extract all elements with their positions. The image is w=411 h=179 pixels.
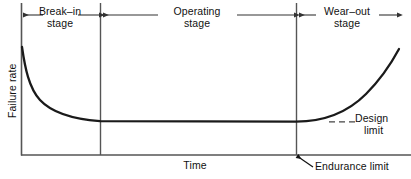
failure-rate-curve: [22, 47, 399, 122]
stage-label-operating-line1: Operating: [173, 5, 220, 17]
stage-label-break-in-line1: Break–in: [39, 5, 81, 17]
stage-label-break-in: Break–instage: [30, 6, 90, 29]
design-limit-label-line2: limit: [355, 125, 409, 137]
bathtub-curve-figure: Break–instage Operatingstage Wear–outsta…: [0, 0, 411, 179]
endurance-limit-leader: [297, 156, 313, 167]
stage-label-wear-out-line1: Wear–out: [324, 5, 370, 17]
design-limit-label-line1: Design: [355, 112, 388, 124]
x-axis-label: Time: [168, 160, 222, 172]
stage-label-operating-line2: stage: [184, 17, 210, 29]
stage-label-break-in-line2: stage: [47, 17, 73, 29]
stage-label-wear-out: Wear–outstage: [318, 6, 376, 29]
design-limit-label: Designlimit: [355, 113, 409, 136]
stage-label-wear-out-line2: stage: [334, 17, 360, 29]
y-axis-label: Failure rate: [7, 56, 19, 126]
endurance-limit-label: Endurance limit: [315, 161, 411, 173]
stage-label-operating: Operatingstage: [160, 6, 234, 29]
